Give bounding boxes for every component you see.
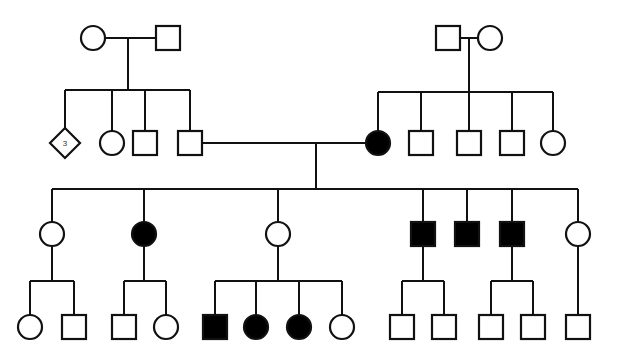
pedigree-symbol-square-unaffected-IV-10[interactable]: [432, 315, 456, 339]
sibship-count-label-II-1: 3: [63, 139, 68, 148]
pedigree-symbol-square-unaffected-II-4[interactable]: [178, 131, 202, 155]
male-symbol-III-6[interactable]: [500, 222, 524, 246]
pedigree-symbol-circle-unaffected-I-1[interactable]: [81, 26, 105, 50]
male-symbol-II-8[interactable]: [500, 131, 524, 155]
pedigree-symbol-circle-unaffected-III-7[interactable]: [566, 222, 590, 246]
pedigree-symbol-square-affected-III-6[interactable]: [500, 222, 524, 246]
connector-lines: [30, 38, 578, 315]
pedigree-symbol-circle-affected-II-5[interactable]: [366, 131, 390, 155]
pedigree-symbol-square-unaffected-IV-2[interactable]: [62, 315, 86, 339]
male-symbol-IV-5[interactable]: [203, 315, 227, 339]
female-symbol-II-2[interactable]: [100, 131, 124, 155]
male-symbol-IV-2[interactable]: [62, 315, 86, 339]
pedigree-symbol-square-affected-IV-5[interactable]: [203, 315, 227, 339]
pedigree-symbol-circle-unaffected-II-2[interactable]: [100, 131, 124, 155]
male-symbol-I-2[interactable]: [156, 26, 180, 50]
female-symbol-II-9[interactable]: [541, 131, 565, 155]
pedigree-symbol-circle-unaffected-I-4[interactable]: [478, 26, 502, 50]
pedigree-symbol-square-unaffected-II-3[interactable]: [133, 131, 157, 155]
pedigree-symbol-square-unaffected-IV-9[interactable]: [390, 315, 414, 339]
female-symbol-I-1[interactable]: [81, 26, 105, 50]
pedigree-symbol-square-unaffected-IV-3[interactable]: [112, 315, 136, 339]
pedigree-chart: 3: [0, 0, 618, 357]
pedigree-symbols: 3: [18, 26, 590, 339]
pedigree-symbol-square-unaffected-IV-11[interactable]: [479, 315, 503, 339]
male-symbol-II-4[interactable]: [178, 131, 202, 155]
female-symbol-IV-4[interactable]: [154, 315, 178, 339]
pedigree-symbol-square-unaffected-IV-12[interactable]: [521, 315, 545, 339]
pedigree-symbol-square-affected-III-5[interactable]: [455, 222, 479, 246]
pedigree-canvas: 3: [0, 0, 618, 357]
male-symbol-IV-12[interactable]: [521, 315, 545, 339]
pedigree-symbol-square-unaffected-II-8[interactable]: [500, 131, 524, 155]
pedigree-symbol-circle-unaffected-IV-1[interactable]: [18, 315, 42, 339]
male-symbol-IV-13[interactable]: [566, 315, 590, 339]
male-symbol-IV-11[interactable]: [479, 315, 503, 339]
pedigree-symbol-diamond-unaffected-II-1[interactable]: 3: [50, 128, 80, 158]
pedigree-symbol-square-unaffected-II-7[interactable]: [457, 131, 481, 155]
female-symbol-IV-1[interactable]: [18, 315, 42, 339]
male-symbol-I-3[interactable]: [436, 26, 460, 50]
pedigree-symbol-circle-affected-III-2[interactable]: [132, 222, 156, 246]
pedigree-symbol-circle-unaffected-III-1[interactable]: [40, 222, 64, 246]
pedigree-symbol-circle-unaffected-IV-4[interactable]: [154, 315, 178, 339]
female-symbol-III-3[interactable]: [266, 222, 290, 246]
pedigree-symbol-square-unaffected-IV-13[interactable]: [566, 315, 590, 339]
female-symbol-II-5[interactable]: [366, 131, 390, 155]
male-symbol-II-7[interactable]: [457, 131, 481, 155]
male-symbol-IV-10[interactable]: [432, 315, 456, 339]
pedigree-symbol-circle-affected-IV-6[interactable]: [244, 315, 268, 339]
pedigree-symbol-circle-unaffected-II-9[interactable]: [541, 131, 565, 155]
female-symbol-IV-6[interactable]: [244, 315, 268, 339]
female-symbol-I-4[interactable]: [478, 26, 502, 50]
male-symbol-II-3[interactable]: [133, 131, 157, 155]
female-symbol-IV-7[interactable]: [287, 315, 311, 339]
male-symbol-III-4[interactable]: [411, 222, 435, 246]
pedigree-symbol-square-unaffected-I-2[interactable]: [156, 26, 180, 50]
male-symbol-IV-3[interactable]: [112, 315, 136, 339]
pedigree-symbol-circle-affected-IV-7[interactable]: [287, 315, 311, 339]
female-symbol-III-1[interactable]: [40, 222, 64, 246]
pedigree-symbol-circle-unaffected-IV-8[interactable]: [330, 315, 354, 339]
female-symbol-III-7[interactable]: [566, 222, 590, 246]
female-symbol-IV-8[interactable]: [330, 315, 354, 339]
pedigree-symbol-square-unaffected-I-3[interactable]: [436, 26, 460, 50]
pedigree-symbol-square-affected-III-4[interactable]: [411, 222, 435, 246]
female-symbol-III-2[interactable]: [132, 222, 156, 246]
male-symbol-II-6[interactable]: [409, 131, 433, 155]
pedigree-symbol-circle-unaffected-III-3[interactable]: [266, 222, 290, 246]
male-symbol-IV-9[interactable]: [390, 315, 414, 339]
male-symbol-III-5[interactable]: [455, 222, 479, 246]
pedigree-symbol-square-unaffected-II-6[interactable]: [409, 131, 433, 155]
